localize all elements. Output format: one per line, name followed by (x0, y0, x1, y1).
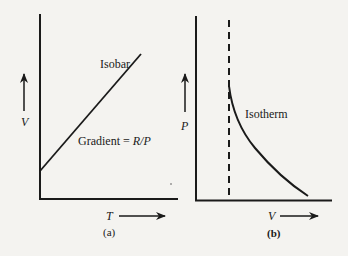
isotherm-curve (229, 86, 308, 196)
gas-law-diagrams: V Isobar Gradient = R/P T (a) P Isotherm… (0, 0, 348, 256)
panel-b-y-label: P (180, 119, 189, 133)
panel-b-isotherm-plot: P Isotherm V (b) (180, 16, 332, 240)
isotherm-label: Isotherm (245, 107, 288, 121)
panel-b-caption: (b) (267, 227, 281, 240)
gradient-value: R/P (132, 134, 152, 148)
panel-a-isobar-plot: V Isobar Gradient = R/P T (a) (21, 14, 178, 239)
gradient-annotation: Gradient = R/P (78, 134, 151, 148)
panel-a-y-label: V (21, 115, 30, 129)
panel-a-x-label: T (106, 209, 114, 223)
panel-b-x-label: V (268, 209, 277, 223)
speck (170, 183, 172, 185)
isobar-label: Isobar (100, 57, 130, 71)
isobar-line (40, 54, 141, 171)
panel-a-caption: (a) (103, 226, 116, 239)
gradient-prefix: Gradient = (78, 134, 133, 148)
